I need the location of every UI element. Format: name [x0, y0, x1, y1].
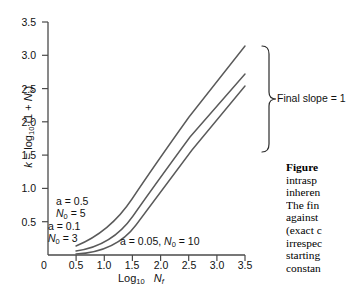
x-tick-label-0-5: 0.5 [63, 259, 89, 271]
y-tick-label-3-0: 3.0 [0, 49, 36, 61]
chart-plot-area: 3.5 3.0 2.5 2.0 1.5 1.0 0.5 0 0.5 1.0 1.… [0, 0, 260, 299]
figure-panel: 3.5 3.0 2.5 2.0 1.5 1.0 0.5 0 0.5 1.0 1.… [0, 0, 349, 299]
x-axis-title: Log10Nf [118, 272, 164, 286]
caption-line-5: against [286, 211, 349, 224]
x-axis-title-varN: N [154, 272, 162, 284]
y-axis-title-mid: (1 + [22, 101, 34, 126]
caption-line-4: The fin [286, 199, 349, 212]
curve-a005-n10 [76, 46, 245, 246]
x-axis-title-log: Log [118, 272, 136, 284]
caption-line-7: irrespec [286, 237, 349, 250]
x-tick-label-1-5: 1.5 [119, 259, 145, 271]
y-axis-title-k: k [22, 162, 34, 168]
y-axis-title-close: ) [22, 86, 34, 90]
y-tick-label-0-5: 0.5 [0, 216, 36, 228]
caption-line-2: intrasp [286, 174, 349, 187]
caption-line-1: Figure [286, 161, 349, 174]
annotation-curve-a05-n5: a = 0.5 N0 = 5 [56, 196, 88, 222]
y-tick-label-3-5: 3.5 [0, 16, 36, 28]
x-tick-label-3-0: 3.0 [204, 259, 230, 271]
x-tick-label-0: 0 [36, 259, 52, 271]
x-tick-label-2-5: 2.5 [176, 259, 202, 271]
annotation-a005-a: a = 0.05, [120, 235, 164, 247]
annotation-a01-n0: N0 = 3 [48, 233, 80, 247]
annotation-curve-a01-n3: a = 0.1 N0 = 3 [48, 221, 80, 247]
y-tick-marks [42, 22, 48, 222]
y-axis-title-varN: N [22, 93, 34, 101]
x-tick-label-3-5: 3.5 [232, 259, 258, 271]
x-tick-label-2-0: 2.0 [148, 259, 174, 271]
caption-line-6: (exact c [286, 224, 349, 237]
y-axis-title: k = log10 (1 + Ns) [22, 62, 36, 192]
y-axis-title-eq: = log [22, 135, 34, 162]
curve-a01-n3 [76, 86, 245, 254]
caption-line-9: constan [286, 262, 349, 275]
annotation-curve-a005-n10: a = 0.05, N0 = 10 [120, 236, 200, 250]
caption-line-3: inheren [286, 186, 349, 199]
x-tick-label-1-0: 1.0 [91, 259, 117, 271]
caption-line-8: starting [286, 249, 349, 262]
final-slope-label: Final slope = 1 [277, 92, 346, 104]
y-axis-title-sub10: 10 [27, 127, 36, 135]
x-axis-title-sub10: 10 [136, 277, 144, 286]
curve-a05-n5 [76, 74, 245, 251]
y-axis-title-subs: s [27, 90, 36, 94]
x-axis-title-subf: f [162, 277, 164, 286]
figure-caption: Figure intrasp inheren The fin against (… [286, 161, 349, 274]
chart-svg [0, 0, 260, 299]
